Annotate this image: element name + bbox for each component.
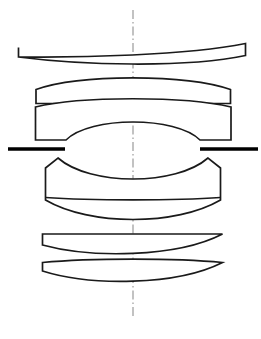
optical-diagram-root: [0, 0, 261, 339]
lens-system-drawing: [0, 0, 261, 339]
